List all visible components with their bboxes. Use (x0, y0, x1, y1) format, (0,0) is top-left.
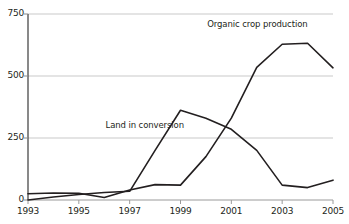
x-tick-label: 1997 (110, 207, 150, 216)
y-tick-label: 0 (0, 195, 24, 204)
series-annotation-label: Organic crop production (207, 20, 307, 29)
x-tick-label: 1993 (8, 207, 48, 216)
x-tick-marks (28, 200, 333, 204)
x-tick-label: 2003 (262, 207, 302, 216)
x-tick-label: 1995 (59, 207, 99, 216)
y-tick-label: 750 (0, 9, 24, 18)
x-tick-label: 2005 (313, 207, 349, 216)
y-tick-label: 250 (0, 133, 24, 142)
x-tick-label: 2001 (211, 207, 251, 216)
series-annotation-label: Land in conversion (106, 121, 184, 130)
x-tick-label: 1999 (161, 207, 201, 216)
y-tick-label: 500 (0, 71, 24, 80)
axis-lines (24, 14, 333, 200)
